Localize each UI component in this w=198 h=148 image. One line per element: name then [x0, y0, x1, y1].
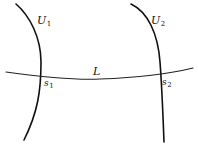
- label-u2: U2: [151, 15, 165, 26]
- label-u2-main: U: [151, 14, 160, 27]
- label-s1-main: s: [44, 78, 49, 88]
- label-s1: s1: [44, 79, 54, 88]
- label-l: L: [93, 66, 100, 77]
- label-s1-subscript: 1: [49, 82, 53, 90]
- diagram-canvas: U1 U2 L s1 s2: [0, 0, 198, 148]
- label-u2-subscript: 2: [161, 20, 165, 28]
- label-s2: s2: [162, 78, 172, 87]
- label-s2-subscript: 2: [167, 81, 171, 89]
- label-l-main: L: [93, 65, 100, 78]
- label-u1-main: U: [37, 14, 46, 27]
- label-u1: U1: [37, 15, 51, 26]
- label-u1-subscript: 1: [47, 20, 51, 28]
- label-s2-main: s: [162, 77, 167, 87]
